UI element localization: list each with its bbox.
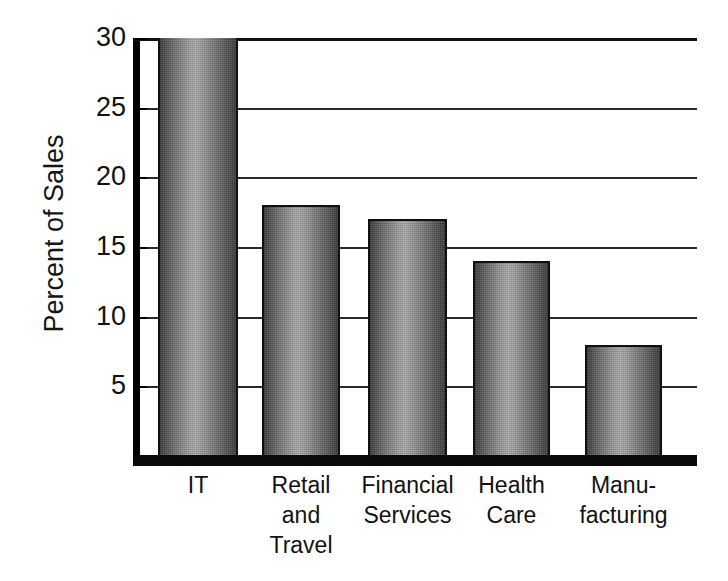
bar-2 — [368, 219, 447, 456]
bar-4 — [585, 345, 662, 456]
bar-chart: Percent of Sales 51015202530 ITRetailand… — [0, 0, 728, 581]
bar-3 — [473, 261, 550, 456]
y-tick-label-10: 10 — [64, 303, 126, 330]
x-label-line: Health — [447, 470, 576, 500]
x-axis-baseline — [133, 455, 697, 466]
x-label-line: Manu- — [559, 470, 688, 500]
x-label-line: Travel — [236, 530, 366, 560]
y-tick-label-15: 15 — [64, 233, 126, 260]
bar-0 — [158, 38, 238, 456]
bars-group — [133, 38, 697, 456]
y-tick-label-30: 30 — [64, 24, 126, 51]
bar-1 — [262, 205, 340, 456]
y-axis-tick-labels: 51015202530 — [60, 0, 126, 581]
x-axis-category-labels: ITRetailandTravelFinancialServicesHealth… — [133, 470, 697, 580]
y-tick-label-20: 20 — [64, 163, 126, 190]
y-tick-label-25: 25 — [64, 94, 126, 121]
plot-area — [133, 38, 697, 456]
x-label-4: Manu-facturing — [559, 470, 688, 530]
x-label-line: Care — [447, 500, 576, 530]
x-label-line: facturing — [559, 500, 688, 530]
y-tick-label-5: 5 — [64, 372, 126, 399]
x-label-3: HealthCare — [447, 470, 576, 530]
